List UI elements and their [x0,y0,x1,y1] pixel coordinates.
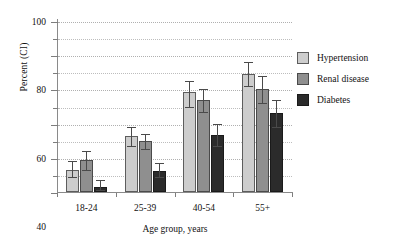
bar-column [242,21,255,192]
error-bar-cap-lower [155,177,164,178]
bar-chart-figure: Percent (CI) 020406080100 18-2425-3940-5… [0,0,409,246]
legend-item: Hypertension [297,49,409,66]
error-bar [276,100,277,127]
bar-column [80,21,93,192]
error-bar-cap-lower [185,107,194,108]
y-axis-title: Percent (CI) [19,7,29,127]
bar-column [139,21,152,192]
bar-group [233,21,292,192]
error-bar-cap-upper [68,161,77,162]
legend-swatch [297,94,309,106]
legend-label: Diabetes [317,95,350,105]
error-bar-cap-upper [199,89,208,90]
error-bar [131,127,132,146]
error-bar-cap-lower [82,170,91,171]
error-bar-cap-upper [127,127,136,128]
x-axis-tick-label: 18-24 [75,203,97,213]
bar [242,74,255,192]
x-axis-tick [233,193,234,197]
bar-group [175,21,234,192]
error-bar-cap-lower [213,146,222,147]
bar [197,100,210,192]
error-bar-cap-upper [258,76,267,77]
bar-column [94,21,107,192]
y-axis-tick-label: 60 [37,154,47,164]
error-bar-cap-lower [68,177,77,178]
error-bar-cap-lower [199,112,208,113]
chart-legend: HypertensionRenal diseaseDiabetes [297,49,409,112]
error-bar-cap-lower [258,103,267,104]
error-bar [86,151,87,170]
bar-group [57,21,116,192]
bar-column [197,21,210,192]
legend-label: Renal disease [317,74,369,84]
legend-swatch [297,52,309,64]
x-axis-tick [292,193,293,197]
y-axis-tick-label: 80 [37,85,47,95]
legend-label: Hypertension [317,53,368,63]
error-bar-cap-upper [272,100,281,101]
error-bar-cap-upper [185,81,194,82]
error-bar-cap-lower [272,127,281,128]
error-bar-cap-lower [127,146,136,147]
error-bar [189,81,190,107]
x-axis-tick [175,193,176,197]
x-axis-tick [57,193,58,197]
error-bar-cap-upper [155,163,164,164]
error-bar [203,89,204,111]
bar-column [153,21,166,192]
bar-column [183,21,196,192]
y-axis-tick-label: 40 [37,222,47,232]
error-bar [159,163,160,177]
x-axis-tick-label: 40-54 [193,203,215,213]
error-bar [100,180,101,190]
error-bar [262,76,263,103]
bar-column [270,21,283,192]
error-bar-cap-upper [244,62,253,63]
bar-group [116,21,175,192]
x-axis-title: Age group, years [57,224,293,234]
legend-item: Diabetes [297,91,409,108]
error-bar [217,124,218,146]
error-bar-cap-upper [141,134,150,135]
legend-swatch [297,73,309,85]
error-bar-cap-lower [244,86,253,87]
plot-area: 020406080100 18-2425-3940-5455+ [57,22,292,193]
error-bar-cap-upper [213,124,222,125]
bar-column [211,21,224,192]
y-axis-tick-label: 100 [32,17,46,27]
bar-column [256,21,269,192]
error-bar-cap-lower [96,190,105,191]
error-bar-cap-upper [96,180,105,181]
error-bar [145,134,146,149]
legend-item: Renal disease [297,70,409,87]
x-axis-tick-label: 55+ [255,203,270,213]
bar-column [66,21,79,192]
bar-column [125,21,138,192]
error-bar [248,62,249,86]
error-bar-cap-upper [82,151,91,152]
error-bar [72,161,73,176]
error-bar-cap-lower [141,149,150,150]
x-axis-tick [116,193,117,197]
x-axis-tick-label: 25-39 [134,203,156,213]
